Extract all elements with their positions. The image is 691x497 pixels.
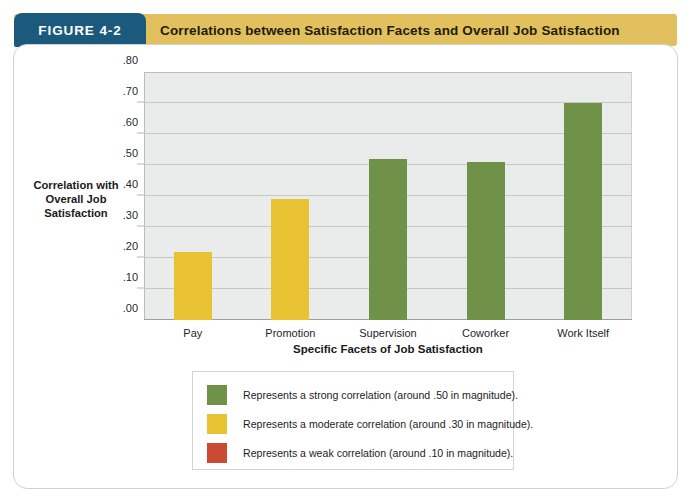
figure-number-tab: FIGURE 4-2 [14,13,146,47]
y-tick-label: .70 [92,85,138,97]
bar [271,199,309,320]
x-tick-label: Supervision [359,327,416,339]
y-tick-mark [137,226,144,227]
legend-label: Represents a weak correlation (around .1… [243,447,513,459]
x-axis-title: Specific Facets of Job Satisfaction [144,343,632,355]
figure-container: FIGURE 4-2 Correlations between Satisfac… [0,0,691,497]
legend-swatch-strong [207,385,227,405]
x-tick-label: Coworker [462,327,509,339]
figure-title: Correlations between Satisfaction Facets… [160,14,620,46]
legend-item: Represents a weak correlation (around .1… [193,440,513,466]
legend-item: Represents a moderate correlation (aroun… [193,411,513,437]
legend-label: Represents a moderate correlation (aroun… [243,418,533,430]
legend-label: Represents a strong correlation (around … [243,389,518,401]
chart-plot: .00.10.20.30.40.50.60.70.80 PayPromotion… [144,72,632,320]
y-tick-label: .50 [92,147,138,159]
bar [467,162,505,320]
y-tick-mark [137,257,144,258]
bar [564,103,602,320]
y-axis-title-line-2: Overall Job [24,192,128,206]
y-tick-label: .80 [92,54,138,66]
y-tick-label: .20 [92,240,138,252]
legend-swatch-moderate [207,414,227,434]
legend-swatch-weak [207,443,227,463]
y-tick-label: .10 [92,271,138,283]
x-tick-label: Promotion [265,327,315,339]
y-tick-label: .40 [92,178,138,190]
x-tick-label: Pay [183,327,202,339]
y-tick-label: .00 [92,302,138,314]
y-tick-mark [137,102,144,103]
y-tick-label: .30 [92,209,138,221]
y-tick-mark [137,288,144,289]
x-tick-label: Work Itself [557,327,609,339]
bar [369,159,407,320]
chart-legend: Represents a strong correlation (around … [192,371,514,470]
y-tick-mark [137,195,144,196]
y-tick-label: .60 [92,116,138,128]
y-tick-mark [137,164,144,165]
y-tick-mark [137,133,144,134]
bar [174,252,212,320]
figure-number-label: FIGURE 4-2 [38,23,121,38]
bar-series [144,72,632,320]
legend-item: Represents a strong correlation (around … [193,382,513,408]
